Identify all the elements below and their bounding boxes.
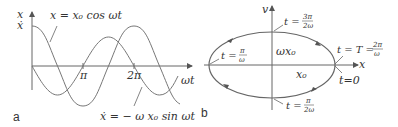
cos-leader-line — [50, 26, 57, 42]
left-annotation-den: ω — [239, 56, 245, 64]
figure: x ẋ x = x₀ cos ωt π 2π ωt ẋ = − ω x₀ sin… — [0, 0, 398, 127]
left-annotation-lhs: t = — [221, 50, 237, 61]
sin-leader-line — [134, 87, 142, 106]
bottom-leader-line — [274, 99, 283, 104]
bottom-annotation-lhs: t = — [286, 100, 302, 111]
x-axis-label-b: x — [359, 58, 366, 71]
v-axis-label: v — [262, 3, 269, 16]
omega-x0-label: ωx₀ — [276, 45, 296, 58]
panel-b-label: b — [201, 106, 208, 120]
left-leader-line — [210, 59, 219, 64]
bottom-annotation-den: 2ω — [303, 106, 314, 114]
direction-arrow-top-left — [227, 38, 233, 43]
left-annotation-num: π — [239, 47, 245, 55]
top-annotation-num: 3π — [303, 13, 312, 21]
x-axis-label: ωt — [181, 74, 195, 87]
sin-label: ẋ = − ω x₀ sin ωt — [100, 110, 195, 123]
t0-label: t=0 — [339, 74, 360, 87]
x0-label: x₀ — [296, 68, 307, 81]
tick-label-2pi: 2π — [126, 69, 142, 82]
bottom-annotation-num: π — [305, 97, 311, 105]
right-annotation-den: ω — [374, 50, 380, 58]
cos-label: x = x₀ cos ωt — [50, 9, 122, 22]
panel-a-label: a — [13, 110, 20, 124]
right-leader-line — [335, 56, 343, 64]
y-label-xdot: ẋ — [17, 19, 24, 32]
right-annotation-lhs: t = T = — [337, 44, 374, 55]
panel-a: x ẋ x = x₀ cos ωt π 2π ωt ẋ = − ω x₀ sin… — [13, 8, 195, 124]
top-leader-line — [274, 25, 283, 31]
tick-label-pi: π — [79, 69, 88, 82]
top-annotation-den: 2ω — [302, 22, 313, 30]
panel-b: v x ωx₀ x₀ t = 3π 2ω t = π ω t = T = 2π … — [201, 3, 383, 120]
direction-arrow-bottom-right — [311, 87, 317, 92]
top-annotation-lhs: t = — [284, 16, 300, 27]
right-annotation-num: 2π — [372, 41, 382, 49]
t0-leader-line — [335, 66, 342, 73]
